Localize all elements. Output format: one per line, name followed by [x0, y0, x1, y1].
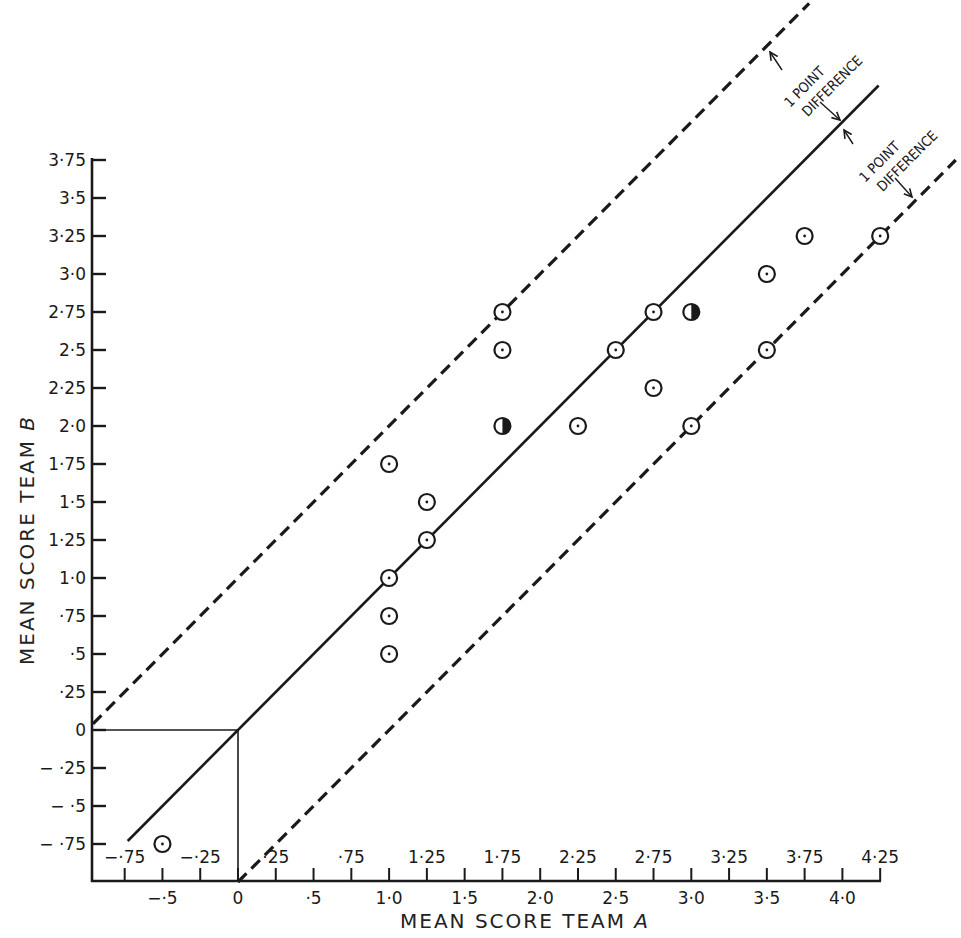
data-point	[646, 304, 662, 320]
y-tick-label: 1·5	[59, 492, 86, 512]
y-tick-label: ·5	[70, 644, 86, 664]
data-point	[494, 342, 510, 358]
y-tick-label: 1·25	[48, 530, 86, 550]
data-point	[381, 608, 397, 624]
scatter-chart: 3·753·53·253·02·752·52·252·01·751·51·251…	[0, 0, 961, 938]
half-filled-point	[683, 304, 699, 320]
x-minor-tick-label: ·25	[262, 847, 289, 867]
data-point	[797, 228, 813, 244]
data-point	[381, 456, 397, 472]
y-tick-label: − ·25	[39, 758, 86, 778]
x-minor-tick-label: 4·25	[861, 847, 899, 867]
y-tick-label: 3·0	[59, 264, 86, 284]
y-tick-label: ·75	[59, 606, 86, 626]
data-point	[872, 228, 888, 244]
x-major-tick-label: 0	[233, 888, 244, 908]
x-minor-tick-label: 2·25	[559, 847, 597, 867]
y-tick-label: 3·5	[59, 188, 86, 208]
half-filled-point	[494, 418, 510, 434]
arrow-up-icon	[770, 52, 782, 70]
x-major-tick-label: 1·0	[376, 888, 403, 908]
data-point	[646, 380, 662, 396]
y-tick-label: ·25	[59, 682, 86, 702]
reference-line-equality	[128, 86, 879, 841]
x-major-tick-label: 1·5	[451, 888, 478, 908]
data-point	[494, 304, 510, 320]
data-point	[419, 532, 435, 548]
y-tick-label: 3·25	[48, 226, 86, 246]
x-major-tick-label: 3·5	[753, 888, 780, 908]
data-point	[154, 836, 170, 852]
y-tick-label: − ·75	[39, 834, 86, 854]
annotation-upper: 1 POINT DIFFERENCE	[770, 39, 866, 124]
y-tick-label: 3·75	[48, 150, 86, 170]
x-major-tick-label: 4·0	[829, 888, 856, 908]
y-tick-label: 2·5	[59, 340, 86, 360]
data-point	[759, 266, 775, 282]
arrow-down-icon	[895, 178, 912, 197]
data-point	[683, 418, 699, 434]
x-major-tick-label: −·5	[147, 888, 177, 908]
y-tick-label: 1·75	[48, 454, 86, 474]
x-minor-tick-label: 1·25	[408, 847, 446, 867]
annotation-lower: 1 POINT DIFFERENCE	[844, 114, 941, 199]
x-minor-tick-label: 1·75	[483, 847, 521, 867]
y-axis-title: MEAN SCORE TEAM B	[15, 415, 39, 665]
arrow-down-icon	[820, 102, 840, 120]
y-tick-label: 2·75	[48, 302, 86, 322]
reference-lines	[93, 3, 956, 882]
y-tick-label: 2·25	[48, 378, 86, 398]
data-point	[759, 342, 775, 358]
data-point	[570, 418, 586, 434]
y-ticks: 3·753·53·253·02·752·52·252·01·751·51·251…	[39, 150, 106, 854]
x-minor-tick-label: 3·25	[710, 847, 748, 867]
x-major-tick-label: 2·0	[527, 888, 554, 908]
arrow-up-icon	[844, 130, 853, 144]
x-ticks: −·75−·25·25·751·251·752·252·753·253·754·…	[104, 847, 899, 908]
y-tick-label: 0	[75, 720, 86, 740]
x-major-tick-label: 3·0	[678, 888, 705, 908]
y-tick-label: − ·5	[50, 796, 86, 816]
reference-line-upper-1-point	[93, 3, 809, 723]
x-minor-tick-label: 3·75	[786, 847, 824, 867]
x-axis-title: MEAN SCORE TEAM A	[400, 909, 650, 933]
data-point	[381, 646, 397, 662]
x-major-tick-label: ·5	[305, 888, 321, 908]
data-point	[381, 570, 397, 586]
y-tick-label: 1·0	[59, 568, 86, 588]
x-minor-tick-label: −·75	[104, 847, 145, 867]
x-major-tick-label: 2·5	[602, 888, 629, 908]
data-point	[608, 342, 624, 358]
data-points	[154, 228, 888, 852]
data-point	[419, 494, 435, 510]
x-minor-tick-label: −·25	[180, 847, 221, 867]
y-tick-label: 2·0	[59, 416, 86, 436]
x-minor-tick-label: ·75	[338, 847, 365, 867]
reference-line-lower-1-point	[238, 160, 956, 882]
x-minor-tick-label: 2·75	[635, 847, 673, 867]
